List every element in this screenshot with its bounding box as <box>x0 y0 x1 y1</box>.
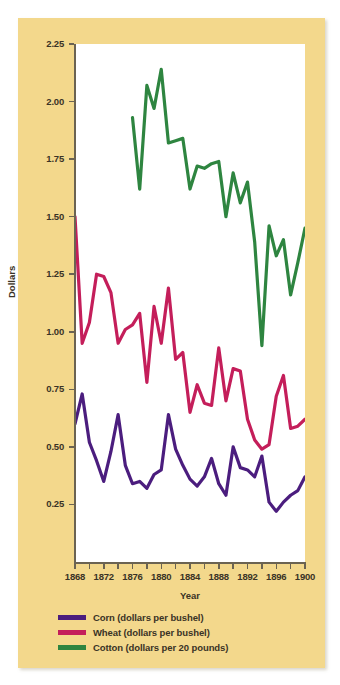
y-tick-label: 1.75 <box>18 153 64 164</box>
y-tick <box>69 446 74 448</box>
y-tick <box>69 101 74 103</box>
legend-label: Wheat (dollars per bushel) <box>93 627 210 638</box>
y-tick <box>69 158 74 160</box>
y-tick-label: 1.50 <box>18 211 64 222</box>
y-tick <box>69 389 74 391</box>
y-tick <box>69 273 74 275</box>
x-tick-label: 1900 <box>285 571 325 582</box>
x-tick <box>89 564 91 569</box>
series-lines <box>75 44 305 562</box>
x-tick <box>232 564 234 569</box>
wheat-line <box>75 217 305 450</box>
legend-item: Wheat (dollars per bushel) <box>58 625 228 640</box>
x-tick <box>247 564 249 569</box>
plot-area <box>75 44 305 562</box>
x-tick <box>175 564 177 569</box>
y-axis-label: Dollars <box>6 266 17 298</box>
legend-swatch <box>58 630 86 635</box>
y-tick <box>69 504 74 506</box>
y-tick-label: 1.00 <box>18 326 64 337</box>
x-tick <box>218 564 220 569</box>
x-tick <box>74 564 76 569</box>
legend-label: Cotton (dollars per 20 pounds) <box>93 642 228 653</box>
x-tick <box>276 564 278 569</box>
legend-swatch <box>58 645 86 650</box>
x-axis-label: Year <box>75 590 305 601</box>
x-tick <box>189 564 191 569</box>
x-tick <box>146 564 148 569</box>
chart-legend: Corn (dollars per bushel)Wheat (dollars … <box>58 610 228 655</box>
y-tick-label: 0.50 <box>18 441 64 452</box>
y-tick <box>69 43 74 45</box>
x-tick <box>132 564 134 569</box>
x-tick <box>204 564 206 569</box>
legend-item: Corn (dollars per bushel) <box>58 610 228 625</box>
x-tick <box>290 564 292 569</box>
legend-label: Corn (dollars per bushel) <box>93 612 203 623</box>
y-tick-label: 0.25 <box>18 498 64 509</box>
cotton-line <box>133 69 306 345</box>
y-tick <box>69 216 74 218</box>
y-tick-label: 2.00 <box>18 96 64 107</box>
chart-figure: 0.250.500.751.001.251.501.752.002.25 186… <box>0 0 340 685</box>
x-tick <box>103 564 105 569</box>
y-tick-label: 1.25 <box>18 268 64 279</box>
x-tick <box>161 564 163 569</box>
y-tick-label: 2.25 <box>18 38 64 49</box>
chart-panel: 0.250.500.751.001.251.501.752.002.25 186… <box>18 18 325 668</box>
y-tick <box>69 331 74 333</box>
y-axis <box>74 44 76 563</box>
y-tick-label: 0.75 <box>18 383 64 394</box>
legend-swatch <box>58 615 86 620</box>
x-tick <box>261 564 263 569</box>
x-tick <box>304 564 306 569</box>
x-tick <box>117 564 119 569</box>
legend-item: Cotton (dollars per 20 pounds) <box>58 640 228 655</box>
